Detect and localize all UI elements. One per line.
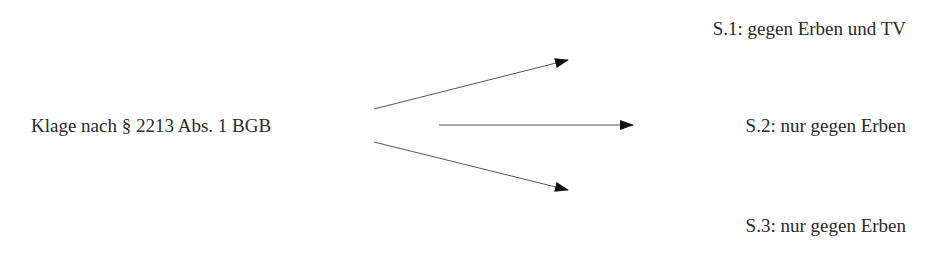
arrow-1-icon <box>374 60 568 109</box>
arrows-layer <box>0 0 933 254</box>
arrow-3-icon <box>374 142 568 190</box>
